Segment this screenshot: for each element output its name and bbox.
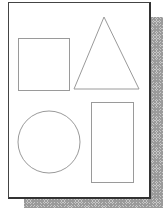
rectangle-shape	[92, 103, 134, 183]
circle-shape	[18, 111, 80, 173]
square-shape	[19, 39, 70, 91]
shapes-canvas	[0, 0, 163, 208]
triangle-shape	[74, 17, 139, 89]
